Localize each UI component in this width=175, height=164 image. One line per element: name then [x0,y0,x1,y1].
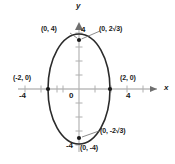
y-axis-label: y [76,2,80,10]
coordinate-plane-graphic [0,0,175,164]
point-covertex-right [108,87,112,91]
x-axis [18,86,157,93]
ellipse-figure: x y -4 4 4 -4 0 (0, 4) (0, 2√3) (-2, 0) … [0,0,175,164]
y-tick-label-neg4: -4 [66,142,73,150]
y-tick-label-4: 4 [81,26,85,34]
annotation-vertex-top: (0, 4) [41,25,57,32]
annotation-focus-bottom: (0, -2√3) [100,127,126,134]
annotation-vertex-bottom: (0, -4) [80,144,98,151]
point-focus-top [77,38,81,42]
point-covertex-left [46,87,50,91]
x-tick-label-4: 4 [126,92,130,100]
annotation-focus-top: (0, 2√3) [99,25,122,32]
annotation-covertex-left: (-2, 0) [13,74,31,81]
x-axis-label: x [164,84,168,92]
x-tick-label-neg4: -4 [19,92,26,100]
point-focus-bottom [77,136,81,140]
annotation-covertex-right: (2, 0) [120,74,136,81]
origin-label: 0 [69,92,73,100]
x-axis-arrow [150,86,157,92]
